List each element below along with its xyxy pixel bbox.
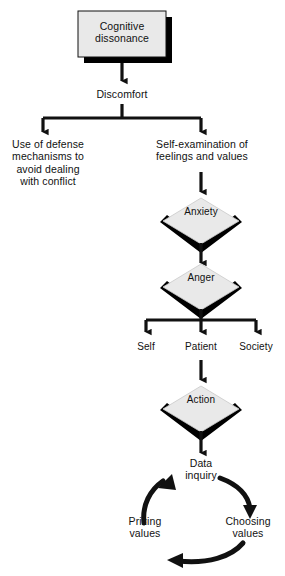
anxiety-diamond (163, 198, 239, 244)
anger-label: Anger (171, 272, 231, 284)
data-inquiry-label: Data inquiry (172, 457, 230, 482)
cognitive-dissonance-label: Cognitive dissonance (78, 20, 166, 45)
self-examination-label: Self-examination of feelings and values (128, 138, 276, 163)
society-label: Society (228, 341, 284, 353)
flowchart-diagram: Cognitive dissonance Discomfort Use of d… (0, 0, 285, 576)
self-label: Self (123, 341, 169, 353)
anger-diamond (163, 264, 239, 310)
discomfort-label: Discomfort (77, 88, 167, 100)
edge-choosing-to-prizing (167, 543, 243, 568)
action-label: Action (171, 394, 231, 406)
patient-label: Patient (175, 341, 227, 353)
flowchart-canvas (0, 0, 285, 576)
defense-mechanisms-label: Use of defense mechanisms to avoid deali… (0, 138, 96, 188)
prizing-values-label: Prizing values (114, 515, 176, 540)
choosing-values-label: Choosing values (216, 515, 280, 540)
action-diamond (163, 386, 239, 432)
anxiety-label: Anxiety (171, 206, 231, 218)
edge-data-to-choosing (220, 478, 257, 519)
